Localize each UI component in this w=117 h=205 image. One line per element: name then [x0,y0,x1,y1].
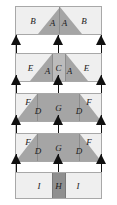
diagram-canvas: B A A B E A C A E F D G D F [0,0,117,205]
region-label-I-left: I [37,182,40,191]
up-arrow-icon [11,115,22,133]
region-label-E-right: E [84,63,90,72]
up-arrow-icon [53,75,64,93]
up-arrow-icon [96,154,107,172]
arrow-row-4 [0,154,117,172]
arrow-row-1 [0,35,117,53]
region-label-E-left: E [28,63,34,72]
region-label-B-left: B [30,17,36,26]
up-arrow-icon [53,154,64,172]
up-arrow-icon [96,75,107,93]
band-1: B A A B [15,6,102,35]
region-triangle-A-left [38,7,60,34]
band-5: I H I [15,172,102,199]
region-divider-center-1 [59,7,60,34]
up-arrow-icon [96,115,107,133]
region-label-I-right: I [77,182,80,191]
region-block-H [52,173,66,198]
up-arrow-icon [11,75,22,93]
up-arrow-icon [11,154,22,172]
up-arrow-icon [53,35,64,53]
up-arrow-icon [53,115,64,133]
region-label-B-right: B [81,17,87,26]
up-arrow-icon [96,35,107,53]
arrow-row-2 [0,75,117,93]
region-triangle-A-right [60,7,82,34]
arrow-row-3 [0,115,117,133]
up-arrow-icon [11,35,22,53]
